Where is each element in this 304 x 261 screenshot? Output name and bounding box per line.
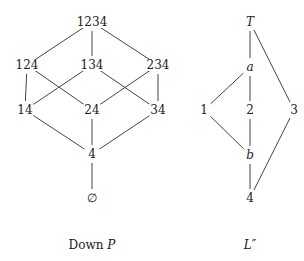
right-diagram-caption: L″ xyxy=(244,238,256,252)
down-p-node-4: 4 xyxy=(87,148,97,160)
down-p-node-134: 134 xyxy=(80,59,105,71)
edge-a-1 xyxy=(211,73,244,104)
diagram-edges xyxy=(0,0,304,261)
edge-1234-234 xyxy=(100,27,151,60)
edge-124-14 xyxy=(25,74,26,101)
down-p-node-234: 234 xyxy=(146,59,171,71)
l-double-prime-node-3: 3 xyxy=(289,104,299,116)
edge-14-4 xyxy=(33,115,85,149)
edge-1-b xyxy=(210,116,243,148)
caption-text: Down xyxy=(69,238,104,252)
l-double-prime-node-T: T xyxy=(245,16,255,28)
down-p-node-empty: ∅ xyxy=(86,192,98,204)
down-p-node-14: 14 xyxy=(16,104,33,116)
down-p-node-124: 124 xyxy=(15,59,40,71)
down-p-node-34: 34 xyxy=(149,104,166,116)
caption-variable: P xyxy=(107,238,115,252)
l-double-prime-node-1: 1 xyxy=(199,104,209,116)
edge-34-4 xyxy=(99,115,150,149)
edge-3-4 xyxy=(254,118,290,190)
edge-T-3 xyxy=(254,30,290,102)
l-double-prime-node-2: 2 xyxy=(245,104,255,116)
down-p-node-24: 24 xyxy=(83,104,100,116)
l-double-prime-node-a: a xyxy=(245,61,254,73)
down-p-node-1234: 1234 xyxy=(76,16,109,28)
l-double-prime-node-4: 4 xyxy=(245,192,255,204)
l-double-prime-node-b: b xyxy=(245,149,255,161)
edge-1234-124 xyxy=(35,27,85,60)
left-diagram-caption: Down P xyxy=(69,238,116,252)
